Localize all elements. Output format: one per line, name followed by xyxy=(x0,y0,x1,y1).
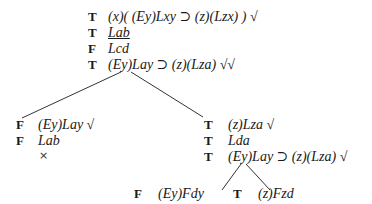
formula: Lab xyxy=(38,133,60,149)
edge-root-to-right xyxy=(131,72,203,117)
sign-label: F xyxy=(16,117,24,133)
sign-label: T xyxy=(233,186,242,202)
sign-label: F xyxy=(88,41,96,57)
formula: (z)Fzd xyxy=(258,186,294,202)
formula: (z)Lza √ xyxy=(228,117,274,133)
sign-label: F xyxy=(16,133,24,149)
formula-underlined: Lab xyxy=(108,25,130,41)
formula: (Ey)Lay ⊃ (z)(Lza) √√ xyxy=(108,57,235,73)
tree-edges xyxy=(0,0,372,204)
formula: (Ey)Fdy xyxy=(158,186,204,202)
formula: (x)( (Ey)Lxy ⊃ (z)(Lzx) ) √ xyxy=(108,9,258,25)
closed-branch-mark: × xyxy=(39,148,48,164)
sign-label: T xyxy=(88,25,97,41)
sign-label: T xyxy=(204,117,213,133)
sign-label: T xyxy=(204,133,213,149)
formula: (Ey)Lay √ xyxy=(38,117,94,133)
sign-label: T xyxy=(88,9,97,25)
formula: Lcd xyxy=(108,41,129,57)
edge-root-to-left xyxy=(22,72,121,118)
sign-label: T xyxy=(88,57,97,73)
formula: (Ey)Lay ⊃ (z)(Lza) √ xyxy=(228,149,347,165)
sign-label: T xyxy=(204,149,213,165)
formula: Lda xyxy=(228,133,250,149)
sign-label: F xyxy=(134,186,142,202)
